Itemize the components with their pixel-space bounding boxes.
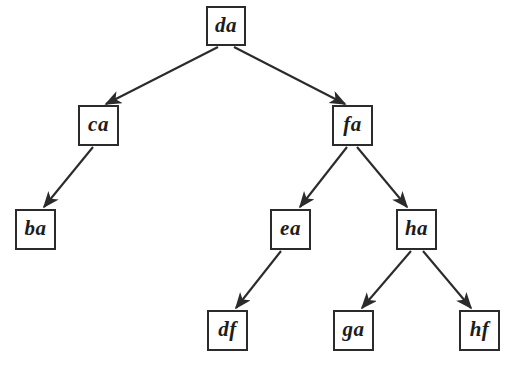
node-fa[interactable]: fa: [332, 105, 373, 146]
edge-ea-to-df: [236, 251, 281, 308]
node-hf[interactable]: hf: [459, 310, 500, 351]
node-label: ba: [25, 218, 47, 239]
node-label: fa: [343, 114, 362, 135]
edge-fa-to-ha: [357, 147, 407, 207]
node-label: ca: [88, 114, 109, 135]
node-label: df: [218, 319, 237, 340]
node-ga[interactable]: ga: [333, 310, 374, 351]
edge-ha-to-hf: [423, 251, 471, 308]
edge-ca-to-ba: [44, 147, 93, 207]
edge-da-to-fa: [234, 47, 345, 104]
edge-da-to-ca: [106, 47, 218, 104]
node-label: ha: [405, 218, 428, 239]
edge-ha-to-ga: [362, 251, 411, 308]
node-label: da: [215, 15, 237, 36]
node-ea[interactable]: ea: [270, 209, 311, 250]
edge-layer: [0, 0, 511, 366]
tree-diagram: da ca fa ba ea ha df ga hf: [0, 0, 511, 366]
node-ba[interactable]: ba: [15, 209, 56, 250]
node-label: ga: [343, 319, 365, 340]
node-da[interactable]: da: [206, 6, 246, 46]
node-label: ea: [280, 218, 301, 239]
node-ca[interactable]: ca: [78, 105, 119, 146]
node-ha[interactable]: ha: [396, 209, 437, 250]
node-label: hf: [470, 319, 490, 340]
node-df[interactable]: df: [207, 310, 248, 351]
edge-fa-to-ea: [300, 147, 347, 207]
